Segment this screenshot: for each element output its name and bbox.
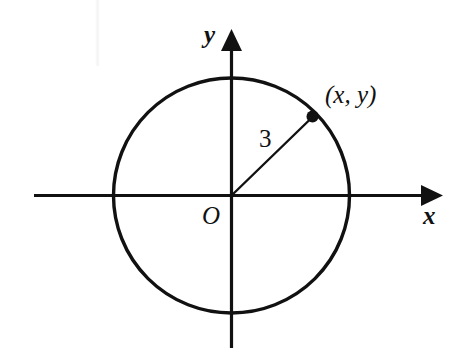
y-axis-arrowhead	[221, 29, 242, 51]
circle-coordinate-diagram: y x O 3 (x, y)	[0, 0, 467, 358]
point-coordinates-label: (x, y)	[325, 82, 376, 107]
radius-segment	[232, 118, 313, 196]
radius-length-label: 3	[259, 126, 272, 151]
point-on-circle-marker	[307, 111, 319, 123]
diagram-canvas	[0, 0, 467, 358]
x-axis-label: x	[423, 203, 436, 228]
y-axis-label: y	[204, 22, 215, 47]
origin-label: O	[202, 203, 220, 228]
